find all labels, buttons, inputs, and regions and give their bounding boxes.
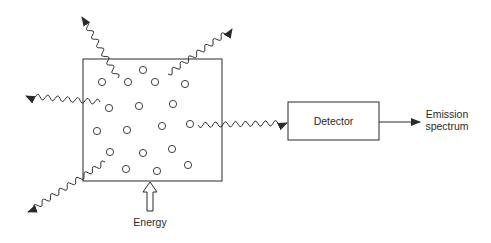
- particle: [169, 100, 176, 107]
- particle: [153, 167, 160, 174]
- emission-diagram: Energy Detector Emission spectrum: [0, 0, 491, 243]
- output-label-line1: Emission: [426, 108, 469, 120]
- particle: [106, 148, 113, 155]
- particle: [122, 165, 129, 172]
- particle: [139, 66, 146, 73]
- emission-top-left: [82, 17, 119, 78]
- particle: [181, 80, 188, 87]
- particle: [184, 161, 191, 168]
- particle: [105, 104, 112, 111]
- particle: [98, 78, 105, 85]
- particles: [93, 66, 193, 174]
- particle: [93, 127, 100, 134]
- sample-box: [83, 59, 222, 181]
- particle: [186, 120, 193, 127]
- particle: [151, 78, 158, 85]
- particle: [168, 145, 175, 152]
- energy-label: Energy: [133, 216, 167, 228]
- particle: [124, 78, 131, 85]
- particle: [158, 122, 165, 129]
- energy-arrow-icon: [143, 182, 157, 211]
- particle: [135, 102, 142, 109]
- emission-right-to-detector: [198, 121, 287, 128]
- output-label-line2: spectrum: [425, 120, 468, 132]
- particle: [123, 126, 130, 133]
- emission-waves: [26, 17, 287, 212]
- detector-label: Detector: [314, 115, 354, 127]
- emission-left: [26, 94, 100, 103]
- particle: [139, 149, 146, 156]
- emission-bottom-left: [28, 161, 105, 212]
